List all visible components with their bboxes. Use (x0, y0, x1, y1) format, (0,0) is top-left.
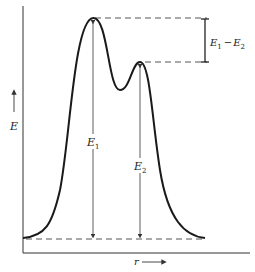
energy-curve (23, 18, 205, 238)
x-axis-label: r (134, 256, 140, 267)
y-axis-label: E (9, 120, 18, 133)
energy-diagram: E1 E2 E1−E2 E r (0, 0, 255, 272)
difference-label: E1−E2 (209, 37, 245, 51)
